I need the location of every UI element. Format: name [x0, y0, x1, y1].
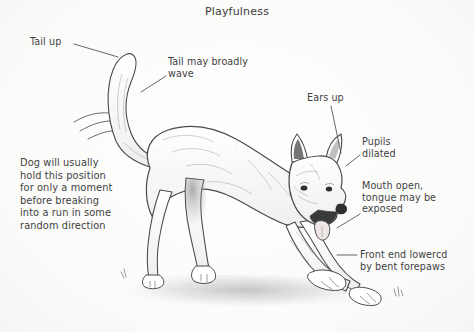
- annotation-front-end-lowered: Front end lowercd by bent forepaws: [360, 249, 448, 272]
- figure-title: Playfulness: [0, 5, 474, 18]
- annotation-ears-up: Ears up: [307, 92, 344, 104]
- leader-mouth: [337, 214, 360, 228]
- annotation-hold-position: Dog will usually hold this position for …: [20, 157, 112, 233]
- leader-tail-up: [74, 44, 118, 57]
- annotation-tail-may-broadly-wave: Tail may broadly wave: [168, 56, 248, 79]
- annotation-tail-up: Tail up: [30, 36, 61, 48]
- leader-tail-wave: [141, 76, 166, 92]
- annotation-pupils-dilated: Pupils dilated: [362, 136, 396, 159]
- annotation-mouth-open: Mouth open, tongue may be exposed: [362, 180, 436, 215]
- playfulness-figure: Playfulness Tail up Tail may broadly wav…: [0, 0, 474, 332]
- leader-pupils: [346, 155, 360, 166]
